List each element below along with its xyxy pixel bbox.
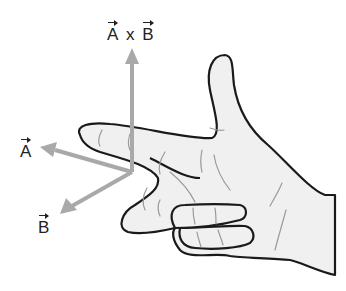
label-cross-product: A x B xyxy=(107,26,154,43)
arrow-a-head xyxy=(40,142,57,157)
label-vector-a: A xyxy=(20,143,31,160)
arrow-a-cross-b-head xyxy=(125,48,139,64)
right-hand-rule-diagram xyxy=(0,0,346,291)
hand-illustration xyxy=(79,55,335,275)
label-cross-a: A xyxy=(107,26,118,43)
arrow-b xyxy=(72,172,132,206)
label-cross-b: B xyxy=(142,26,153,43)
label-cross-operator: x xyxy=(126,25,135,44)
label-vector-b: B xyxy=(38,219,49,236)
curled-finger-2 xyxy=(180,226,254,249)
